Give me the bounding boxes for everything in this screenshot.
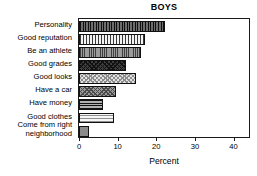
bar-row (79, 34, 249, 47)
x-tick-mark (79, 138, 80, 141)
x-tick-label: 10 (108, 142, 128, 151)
bar-come-from-right-neighborhood (79, 126, 89, 137)
bar-row (79, 60, 249, 73)
bar-good-grades (79, 60, 126, 71)
y-label-3: Good grades (0, 60, 72, 69)
y-label-5: Have a car (0, 86, 72, 95)
bar-row (79, 21, 249, 34)
bar-row (79, 47, 249, 60)
bar-have-money (79, 99, 103, 110)
bar-be-an-athlete (79, 47, 141, 58)
y-label-1: Good reputation (0, 34, 72, 43)
bar-good-clothes (79, 113, 114, 124)
bar-good-reputation (79, 34, 145, 45)
bars-area (79, 19, 249, 137)
chart-container: BOYS PersonalityGood reputationBe an ath… (0, 0, 257, 176)
bar-row (79, 113, 249, 126)
chart-title: BOYS (78, 2, 250, 12)
bar-have-a-car (79, 86, 116, 97)
x-tick-label: 30 (185, 142, 205, 151)
x-axis-ticks: 010203040 (0, 138, 257, 154)
bar-personality (79, 21, 165, 32)
bar-row (79, 86, 249, 99)
y-label-6: Have money (0, 99, 72, 108)
y-label-0: Personality (0, 21, 72, 30)
x-tick-label: 20 (146, 142, 166, 151)
x-tick-mark (195, 138, 196, 141)
x-tick-mark (234, 138, 235, 141)
bar-row (79, 99, 249, 112)
x-tick-label: 40 (224, 142, 244, 151)
y-label-2: Be an athlete (0, 47, 72, 56)
bar-row (79, 126, 249, 139)
y-label-4: Good looks (0, 73, 72, 82)
bar-good-looks (79, 73, 136, 84)
bar-row (79, 73, 249, 86)
x-tick-mark (118, 138, 119, 141)
y-axis-category-labels: PersonalityGood reputationBe an athleteG… (0, 19, 75, 137)
x-tick-label: 0 (69, 142, 89, 151)
y-label-8: Come from right neighborhood (0, 121, 72, 138)
x-tick-mark (156, 138, 157, 141)
x-axis-title: Percent (78, 156, 250, 166)
